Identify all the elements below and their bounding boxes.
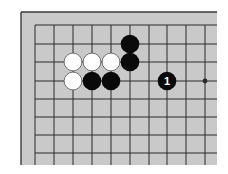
white-stone [64, 53, 82, 71]
move-number-label: 1 [164, 75, 170, 87]
board-surface [21, 12, 217, 165]
black-stone [83, 72, 102, 91]
star-point-icon [203, 79, 208, 84]
black-stone [121, 53, 140, 72]
white-stone [83, 53, 101, 71]
white-stone [102, 53, 120, 71]
go-board-diagram: 1 [0, 0, 228, 174]
black-stone [102, 72, 121, 91]
go-board: 1 [0, 0, 228, 174]
white-stone [64, 72, 82, 90]
black-stone [121, 35, 140, 54]
